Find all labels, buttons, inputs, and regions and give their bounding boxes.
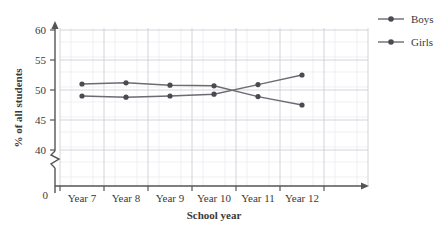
data-point-boys-year11 bbox=[255, 94, 260, 99]
origin-label: 0 bbox=[43, 189, 49, 201]
grid-minor-horizontal bbox=[60, 42, 368, 177]
legend-swatch-girls-marker bbox=[388, 39, 394, 45]
legend-item-boys[interactable]: Boys bbox=[378, 13, 434, 25]
data-point-boys-year10 bbox=[211, 83, 216, 88]
y-tick-label-45: 45 bbox=[35, 114, 47, 126]
x-tick-label-year8: Year 8 bbox=[112, 192, 141, 204]
data-point-girls-year10 bbox=[211, 92, 216, 97]
data-point-boys-year9 bbox=[167, 83, 172, 88]
legend-item-girls[interactable]: Girls bbox=[378, 36, 433, 48]
y-tick-label-60: 60 bbox=[35, 24, 47, 36]
legend: Boys Girls bbox=[378, 13, 434, 48]
legend-label-girls: Girls bbox=[411, 36, 433, 48]
y-tick-label-50: 50 bbox=[35, 84, 47, 96]
data-point-girls-year9 bbox=[167, 93, 172, 98]
x-tick-label-year12: Year 12 bbox=[285, 192, 319, 204]
x-axis bbox=[55, 182, 369, 189]
legend-swatch-boys-marker bbox=[388, 16, 394, 22]
data-point-girls-year12 bbox=[299, 72, 304, 77]
data-point-girls-year11 bbox=[255, 82, 260, 87]
x-tick-label-year10: Year 10 bbox=[197, 192, 232, 204]
y-axis bbox=[51, 21, 59, 193]
data-point-girls-year7 bbox=[79, 93, 84, 98]
data-point-boys-year8 bbox=[123, 80, 128, 85]
x-axis-title: School year bbox=[187, 209, 242, 221]
line-chart-figure: 60 55 50 45 40 0 % of all students Year … bbox=[0, 0, 445, 237]
legend-label-boys: Boys bbox=[411, 13, 434, 25]
data-point-boys-year7 bbox=[79, 81, 84, 86]
y-tick-label-55: 55 bbox=[35, 54, 47, 66]
data-point-girls-year8 bbox=[123, 95, 128, 100]
x-tick-label-year9: Year 9 bbox=[156, 192, 185, 204]
chart-svg: 60 55 50 45 40 0 % of all students Year … bbox=[0, 0, 445, 237]
data-point-boys-year12 bbox=[299, 102, 304, 107]
x-tick-label-year11: Year 11 bbox=[241, 192, 275, 204]
x-tick-label-year7: Year 7 bbox=[68, 192, 97, 204]
y-axis-title: % of all students bbox=[12, 68, 24, 148]
y-tick-label-40: 40 bbox=[35, 144, 47, 156]
y-tick-marks bbox=[50, 30, 55, 150]
y-axis-arrowhead bbox=[51, 21, 58, 29]
x-tick-marks bbox=[60, 186, 324, 191]
